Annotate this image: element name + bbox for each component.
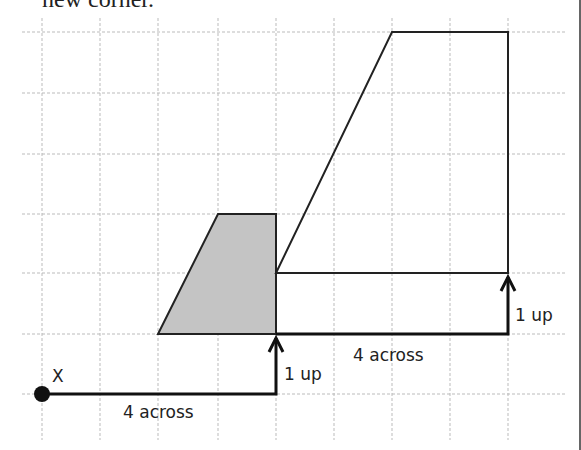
label-4-across-1: 4 across xyxy=(123,402,194,422)
point-x-dot xyxy=(34,386,50,402)
label-1-up-1: 1 up xyxy=(284,364,322,384)
point-x-label: X xyxy=(52,366,64,386)
label-1-up-2: 1 up xyxy=(515,305,553,325)
enlargement-diagram: X 4 across 1 up 4 across 1 up xyxy=(0,0,581,450)
label-4-across-2: 4 across xyxy=(353,345,424,365)
original-shape xyxy=(158,214,276,334)
